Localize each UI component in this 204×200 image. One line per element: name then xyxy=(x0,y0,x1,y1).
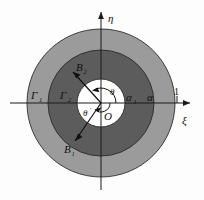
theta-upper-label: θ xyxy=(110,87,115,97)
xi-axis-label: ξ xyxy=(182,114,187,127)
origin-label: O xyxy=(104,110,112,122)
alpha1-subscript: 1 xyxy=(134,98,137,105)
xi-axis-arrowhead xyxy=(183,100,190,106)
eta-axis-arrowhead xyxy=(98,12,104,19)
b1-label: B xyxy=(64,143,71,155)
alpha1-label: α xyxy=(126,91,132,103)
b1-subscript: 1 xyxy=(72,150,75,157)
figure-root: η ξ 1 O Γ 1 Γ 2 α 1 α B 2 B xyxy=(0,0,204,200)
gamma1-label: Γ xyxy=(30,89,38,101)
gamma1-subscript: 1 xyxy=(39,96,42,103)
unit-tick-label: 1 xyxy=(174,86,179,97)
alpha-label: α xyxy=(147,91,153,103)
b2-label: B xyxy=(76,61,83,73)
eta-axis-label: η xyxy=(108,12,113,24)
theta-lower-label: θ xyxy=(83,108,88,118)
domain-diagram: η ξ 1 O Γ 1 Γ 2 α 1 α B 2 B xyxy=(0,0,204,200)
gamma2-label: Γ xyxy=(59,89,67,101)
